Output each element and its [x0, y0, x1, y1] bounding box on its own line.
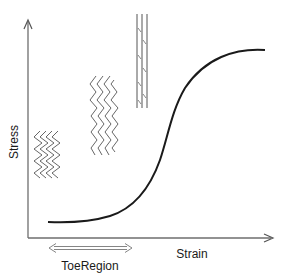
x-axis [28, 234, 273, 242]
y-axis [24, 20, 32, 238]
stress-strain-diagram: Stress Strain ToeRegion [0, 0, 286, 280]
toe-region-label: ToeRegion [61, 259, 118, 273]
crimped-fibers-icon [34, 131, 60, 178]
y-axis-label: Stress [7, 125, 21, 159]
toe-region-double-arrow-icon [49, 244, 132, 253]
stress-strain-curve [48, 50, 265, 223]
x-axis-label: Strain [176, 247, 207, 261]
wavy-fibers-icon [90, 76, 118, 155]
straight-fibers-icon [137, 14, 147, 108]
